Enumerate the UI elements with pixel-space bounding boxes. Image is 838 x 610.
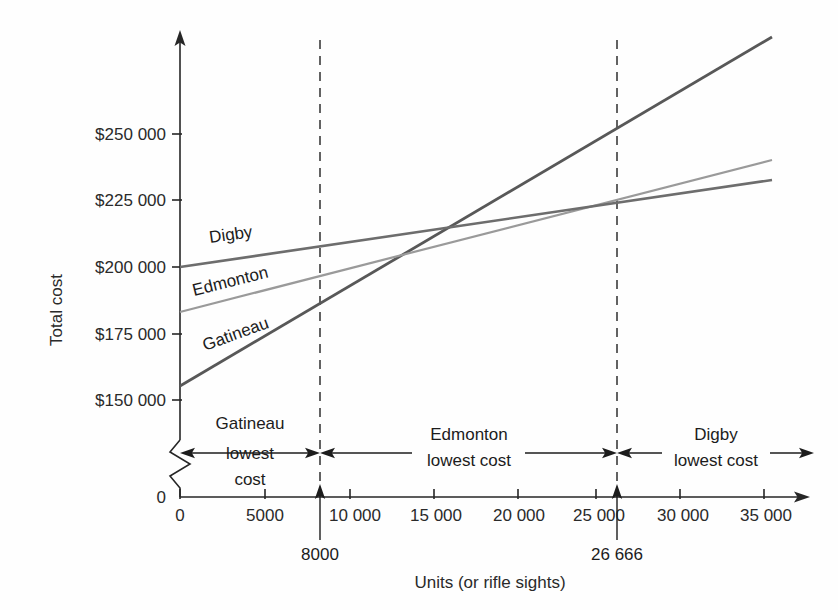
series-line-digby [180, 180, 772, 267]
y-tick-label-150000: $150 000 [95, 391, 166, 410]
x-tick-label-10000: 10 000 [329, 506, 381, 525]
x-tick-label-30000: 30 000 [657, 506, 709, 525]
series-label-edmonton: Edmonton [190, 263, 270, 300]
y-tick-label-225000: $225 000 [95, 191, 166, 210]
callout-label-26666: 26 666 [591, 545, 643, 564]
x-axis-group: 0 5000 10 000 15 000 20 000 25 000 30 00… [175, 489, 810, 592]
series-label-digby: Digby [208, 222, 254, 247]
region-edmonton-label-line1: Edmonton [430, 425, 508, 444]
y-origin-label: 0 [157, 488, 166, 507]
x-tick-label-0: 0 [175, 506, 184, 525]
y-tick-label-250000: $250 000 [95, 125, 166, 144]
y-tick-label-175000: $175 000 [95, 325, 166, 344]
y-axis-break-icon [170, 440, 190, 497]
series-line-gatineau [180, 37, 772, 386]
y-axis-group: $250 000 $225 000 $200 000 $175 000 $150… [47, 30, 190, 507]
callout-label-8000: 8000 [301, 545, 339, 564]
series-label-gatineau: Gatineau [200, 313, 271, 354]
cost-comparison-chart: $250 000 $225 000 $200 000 $175 000 $150… [0, 0, 838, 610]
region-gatineau-label-line1: Gatineau [216, 414, 285, 433]
series-line-edmonton [180, 160, 772, 312]
series-lines-group [180, 37, 772, 386]
region-gatineau-label-line2: lowest [226, 444, 274, 463]
region-digby-label-line2: lowest cost [674, 451, 758, 470]
chart-page: $250 000 $225 000 $200 000 $175 000 $150… [0, 0, 838, 610]
x-tick-label-35000: 35 000 [740, 506, 792, 525]
region-edmonton: Edmonton lowest cost [320, 425, 617, 470]
regions-group: Gatineau lowest cost Edmonton lowest cos… [180, 414, 814, 489]
region-gatineau: Gatineau lowest cost [180, 414, 320, 489]
region-edmonton-label-line2: lowest cost [427, 451, 511, 470]
y-axis-title: Total cost [47, 274, 66, 346]
x-tick-label-5000: 5000 [246, 506, 284, 525]
series-labels-group: Digby Edmonton Gatineau [190, 222, 271, 355]
region-digby: Digby lowest cost [617, 425, 814, 470]
y-tick-label-200000: $200 000 [95, 258, 166, 277]
region-gatineau-label-line3: cost [234, 470, 265, 489]
x-tick-label-20000: 20 000 [493, 506, 545, 525]
x-axis-title: Units (or rifle sights) [414, 573, 565, 592]
x-tick-label-15000: 15 000 [410, 506, 462, 525]
region-digby-label-line1: Digby [694, 425, 738, 444]
